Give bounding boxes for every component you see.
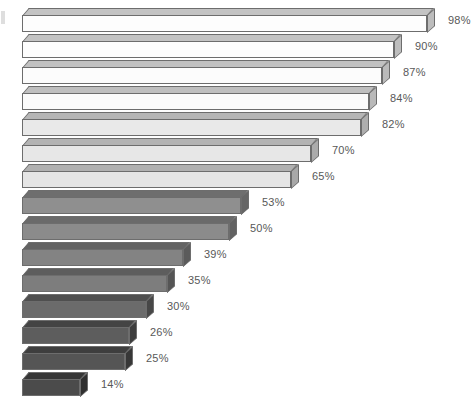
bar-6[interactable] [22,138,311,164]
bar-front-face [22,119,361,136]
bar-front-face [22,67,382,84]
bar-row: 65% [22,164,299,190]
bar-value-label: 98% [448,14,471,26]
bar-value-label: 35% [188,274,211,286]
bar-value-label: 65% [312,170,335,182]
bar-9[interactable] [22,216,229,242]
bar-2[interactable] [22,34,394,60]
bar-row: 84% [22,86,377,112]
bar-4[interactable] [22,86,369,112]
bar-front-face [22,93,369,110]
bar-11[interactable] [22,268,167,294]
bar-value-label: 50% [250,222,273,234]
bar-row: 53% [22,190,249,216]
bar-value-label: 87% [403,66,426,78]
bar-row: 98% [22,8,435,34]
bar-14[interactable] [22,346,125,372]
bar-value-label: 70% [332,144,355,156]
bar-row: 30% [22,294,154,320]
bar-value-label: 14% [101,378,124,390]
bar-front-face [22,249,183,266]
bar-front-face [22,197,241,214]
bar-row: 70% [22,138,319,164]
bar-row: 14% [22,372,88,398]
bar-row: 35% [22,268,175,294]
bar-front-face [22,275,167,292]
bar-10[interactable] [22,242,183,268]
bar-13[interactable] [22,320,129,346]
bar-front-face [22,41,394,58]
axis-label-stub [1,11,5,24]
bar-12[interactable] [22,294,146,320]
bar-front-face [22,223,229,240]
bar-row: 50% [22,216,237,242]
bar-front-face [22,301,146,318]
bar-5[interactable] [22,112,361,138]
bar-value-label: 53% [262,196,285,208]
bar-value-label: 90% [415,40,438,52]
bar-front-face [22,15,427,32]
bar-row: 90% [22,34,402,60]
bar-row: 25% [22,346,133,372]
bar-row: 26% [22,320,137,346]
bar-value-label: 30% [167,300,190,312]
bar-front-face [22,353,125,370]
bar-value-label: 26% [150,326,173,338]
bar-3[interactable] [22,60,382,86]
bar-value-label: 25% [146,352,169,364]
bar-row: 87% [22,60,390,86]
bar-front-face [22,379,80,396]
bar-front-face [22,327,129,344]
bar-front-face [22,171,291,188]
bar-row: 39% [22,242,191,268]
bar-1[interactable] [22,8,427,34]
bar-value-label: 39% [204,248,227,260]
bar-value-label: 84% [390,92,413,104]
bar-row: 82% [22,112,369,138]
bar-8[interactable] [22,190,241,216]
bar-value-label: 82% [382,118,405,130]
bar-15[interactable] [22,372,80,398]
bar-front-face [22,145,311,162]
bar-7[interactable] [22,164,291,190]
